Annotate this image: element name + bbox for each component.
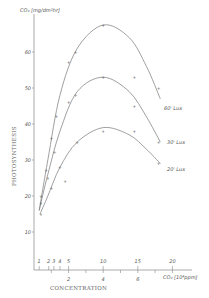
curve-series-2 — [40, 127, 160, 214]
legend-30-lux: 30' Lux — [167, 139, 185, 145]
data-point: + — [39, 201, 43, 206]
y-tick-label: 30 — [25, 157, 31, 163]
x-secondary-tick-label: 4 — [58, 258, 61, 264]
y-tick-label: 60 — [25, 49, 31, 55]
x-tick-label: 4 — [102, 276, 105, 282]
series-points: +++++++++++++++++++++++++ — [39, 23, 161, 217]
y-tick-label: 40 — [25, 121, 31, 127]
data-point: + — [49, 186, 53, 191]
data-point: + — [157, 140, 161, 145]
curve-series-1 — [39, 77, 160, 210]
data-point: + — [101, 23, 105, 28]
data-point: + — [39, 212, 43, 217]
data-point: + — [58, 165, 62, 170]
data-point: + — [44, 168, 48, 173]
x-tick-label: 2 — [67, 276, 70, 282]
data-point: + — [49, 136, 53, 141]
x-ticks: 246 — [51, 270, 172, 282]
x-secondary-tick-label: 2 — [47, 258, 50, 264]
y-axis-title: PHOTOSYNTHESIS — [11, 126, 17, 186]
data-point: + — [63, 179, 67, 184]
x-axis-title: CONCENTRATION — [50, 285, 107, 291]
photosynthesis-chart: CO₂ [mg/dm²hr] PHOTOSYNTHESIS CONCENTRAT… — [0, 0, 209, 298]
data-point: + — [46, 176, 50, 181]
x-secondary-tick-label: 3 — [52, 258, 55, 264]
legend-60-lux: 60' Lux — [164, 105, 182, 111]
data-point: + — [55, 114, 59, 119]
data-point: + — [101, 129, 105, 134]
legend-20-lux: 20' Lux — [167, 166, 185, 172]
data-point: + — [74, 50, 78, 55]
y-tick-label: 10 — [25, 229, 31, 235]
y-axis-unit: CO₂ [mg/dm²hr] — [20, 7, 60, 14]
y-tick-label: 20 — [25, 193, 31, 199]
x-secondary-ticks: 12345101520 — [38, 258, 176, 270]
y-tick-label: 50 — [25, 85, 31, 91]
x-secondary-tick-label: 20 — [169, 258, 175, 264]
data-point: + — [39, 194, 43, 199]
data-point: + — [75, 140, 79, 145]
x-secondary-tick-label: 10 — [100, 258, 106, 264]
data-point: + — [157, 161, 161, 166]
data-point: + — [101, 75, 105, 80]
series-curves — [39, 25, 160, 214]
data-point: + — [67, 100, 71, 105]
x-secondary-tick-label: 5 — [67, 258, 70, 264]
data-point: + — [53, 150, 57, 155]
data-point: + — [67, 60, 71, 65]
y-ticks: 102030405060 — [25, 49, 34, 235]
x-secondary-tick-label: 1 — [38, 258, 41, 264]
data-point: + — [132, 75, 136, 80]
data-point: + — [132, 129, 136, 134]
data-point: + — [74, 93, 78, 98]
data-point: + — [132, 104, 136, 109]
x-secondary-tick-label: 15 — [135, 258, 141, 264]
x-axis-unit: CO₂ [10⁴ppm] — [163, 274, 198, 281]
x-tick-label: 6 — [136, 276, 139, 282]
data-point: + — [157, 86, 161, 91]
